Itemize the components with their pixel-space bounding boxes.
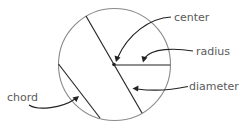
circle-parts-diagram: center radius diameter chord — [0, 0, 243, 134]
chord-label: chord — [7, 91, 38, 104]
radius-label: radius — [196, 45, 230, 58]
center-point — [112, 63, 116, 67]
radius-pointer-arrow-icon — [142, 49, 194, 62]
diameter-pointer-arrow-icon — [133, 86, 189, 92]
center-pointer-arrow-icon — [115, 17, 172, 62]
center-label: center — [174, 11, 210, 24]
diameter-label: diameter — [189, 80, 239, 93]
